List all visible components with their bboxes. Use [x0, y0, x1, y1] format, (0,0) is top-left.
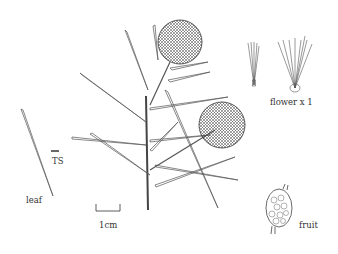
- scale-bar: [96, 204, 120, 211]
- fruit-drawing: [266, 184, 292, 234]
- flower-head-lower: [199, 102, 245, 148]
- botanical-illustration: flower x 1 TS leaf 1cm fruit: [0, 0, 338, 254]
- ts-label: TS: [52, 156, 64, 166]
- leaf-drawing: [21, 109, 53, 196]
- scale-label: 1cm: [99, 220, 117, 230]
- single-flower-drawing: [278, 36, 312, 92]
- flower-head-top: [158, 20, 202, 64]
- plant-drawing: [0, 0, 338, 254]
- leaf-label: leaf: [26, 195, 42, 205]
- stamen-drawing: [248, 42, 259, 86]
- fruit-label: fruit: [299, 220, 318, 230]
- flower-label: flower x 1: [270, 97, 313, 107]
